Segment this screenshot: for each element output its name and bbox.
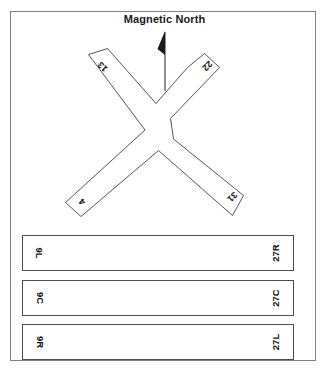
page-title: Magnetic North — [0, 13, 329, 25]
runway-label-9C: 9C — [35, 292, 45, 304]
parallel-runway-bar: 9C 27C — [22, 280, 294, 316]
runway-label-27R: 27R — [271, 244, 281, 261]
runway-label-9R: 9R — [35, 336, 45, 348]
runway-label-27L: 27L — [271, 334, 281, 350]
parallel-runway-bar: 9R 27L — [22, 324, 294, 360]
runway-label-27C: 27C — [271, 289, 281, 306]
runway-layout-diagram: Magnetic North 13 22 4 31 9L 27R 9C 27C … — [0, 0, 329, 373]
runway-label-9L: 9L — [35, 247, 45, 258]
parallel-runway-bar: 9L 27R — [22, 235, 294, 271]
crossing-runways-shape — [60, 45, 275, 225]
